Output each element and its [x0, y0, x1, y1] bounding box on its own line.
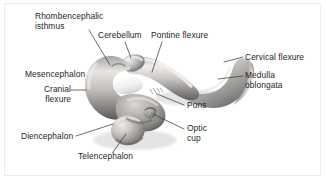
- leader-medulla-oblongata: [218, 76, 243, 79]
- leader-lines: [0, 0, 326, 181]
- leader-rhombencephalic-isthmus: [89, 30, 110, 65]
- leader-optic-cup: [153, 114, 184, 129]
- leader-pons: [157, 94, 184, 105]
- leader-cerebellum: [125, 42, 131, 58]
- leader-pontine-flexure: [152, 42, 162, 72]
- leader-telencephalon: [113, 134, 126, 152]
- leader-diencephalon: [76, 124, 113, 136]
- leader-cervical-flexure: [224, 57, 243, 62]
- embryo-brain-figure: Rhombencephalic isthmus Cerebellum Ponti…: [0, 0, 326, 181]
